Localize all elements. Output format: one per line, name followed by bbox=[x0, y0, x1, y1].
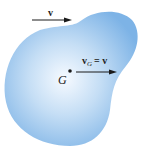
center-of-mass-label: G bbox=[58, 73, 67, 87]
center-of-mass-point bbox=[68, 69, 72, 73]
rigid-body-shape bbox=[5, 12, 138, 146]
top-velocity-arrow bbox=[32, 18, 72, 23]
rigid-body-diagram: v G vG= v bbox=[0, 0, 143, 152]
top-velocity-label: v bbox=[48, 7, 53, 18]
